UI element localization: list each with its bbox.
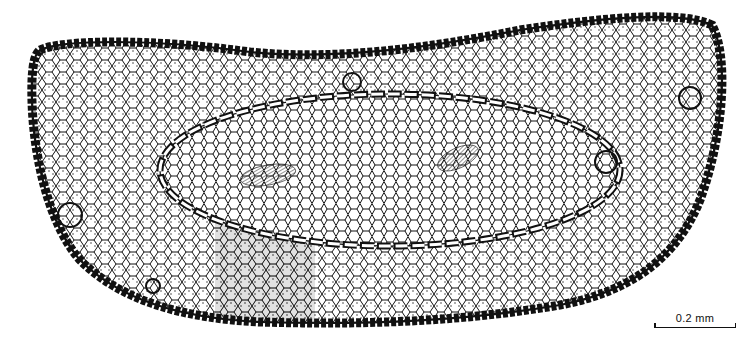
scale-bar-tick-left: [654, 323, 656, 328]
scale-bar-label: 0.2 mm: [654, 312, 736, 324]
cross-section-figure: [0, 0, 742, 353]
scale-bar-line: [654, 327, 736, 328]
scale-bar: 0.2 mm: [654, 312, 736, 332]
stele: [160, 94, 620, 246]
scale-bar-tick-right: [735, 323, 737, 328]
